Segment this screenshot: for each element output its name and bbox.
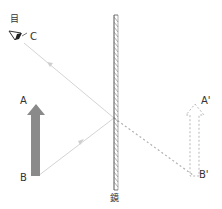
object-top-label: A <box>20 96 27 106</box>
mirror-diagram: 目 C A B A' B' 鏡 <box>0 0 222 209</box>
eye-label: 目 <box>10 15 19 24</box>
image-bottom-label: B' <box>199 170 209 180</box>
image-arrow <box>186 104 204 176</box>
image-top-label: A' <box>201 96 211 106</box>
object-arrow <box>27 104 45 176</box>
eye-icon <box>9 31 27 40</box>
mirror <box>114 15 118 190</box>
incident-ray <box>38 118 114 176</box>
eye-point-label: C <box>30 32 37 42</box>
virtual-ray <box>114 118 193 175</box>
object-bottom-label: B <box>20 173 27 183</box>
mirror-label: 鏡 <box>110 194 119 203</box>
